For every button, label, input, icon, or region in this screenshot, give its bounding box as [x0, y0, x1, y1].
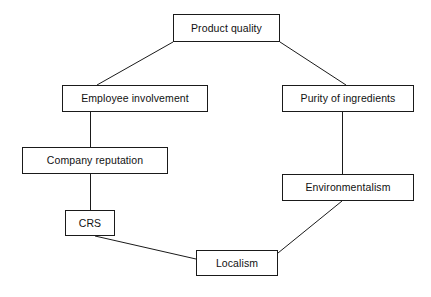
edge-product-quality-to-purity-of-ingredients	[280, 42, 346, 85]
node-employee-involvement[interactable]: Employee involvement	[62, 85, 208, 112]
node-label-crs: CRS	[79, 218, 101, 229]
node-crs[interactable]: CRS	[65, 210, 115, 236]
diagram-canvas: Product qualityEmployee involvementPurit…	[0, 0, 431, 297]
node-label-product-quality: Product quality	[191, 23, 262, 34]
node-label-environmentalism: Environmentalism	[305, 182, 390, 193]
node-label-purity-of-ingredients: Purity of ingredients	[301, 93, 396, 104]
node-company-reputation[interactable]: Company reputation	[22, 147, 168, 174]
node-product-quality[interactable]: Product quality	[173, 14, 280, 42]
edge-product-quality-to-employee-involvement	[97, 42, 173, 85]
node-label-company-reputation: Company reputation	[47, 155, 143, 166]
node-localism[interactable]: Localism	[196, 250, 278, 276]
node-environmentalism[interactable]: Environmentalism	[282, 174, 414, 201]
node-label-localism: Localism	[216, 258, 258, 269]
edge-crs-to-localism	[95, 236, 196, 259]
node-label-employee-involvement: Employee involvement	[81, 93, 189, 104]
node-purity-of-ingredients[interactable]: Purity of ingredients	[282, 85, 414, 112]
edge-environmentalism-to-localism	[278, 201, 342, 253]
